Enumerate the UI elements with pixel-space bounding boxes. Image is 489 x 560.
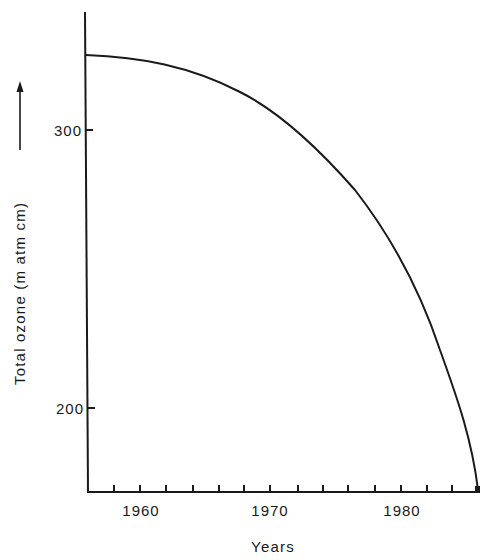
y-axis	[85, 12, 88, 492]
x-tick-label-1970: 1970	[251, 502, 288, 519]
arrow-head-icon	[17, 81, 24, 92]
x-tick-label-1960: 1960	[122, 502, 159, 519]
y-tick-label-300: 300	[54, 122, 82, 139]
x-tick-label-1980: 1980	[383, 502, 420, 519]
x-axis-title: Years	[251, 538, 295, 555]
y-tick-label-200: 200	[56, 400, 84, 417]
x-ticks	[114, 485, 452, 492]
ozone-curve	[86, 55, 478, 490]
y-axis-title: Total ozone (m atm cm)	[11, 202, 28, 385]
ozone-chart: 300 200 1960 1970 1980 Years Total ozone…	[0, 0, 489, 560]
